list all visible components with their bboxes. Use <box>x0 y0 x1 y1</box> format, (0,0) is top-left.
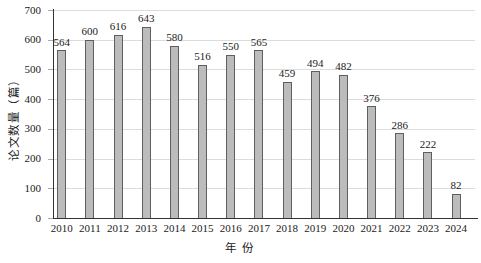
x-tick-label: 2024 <box>438 222 474 235</box>
bar <box>452 194 461 218</box>
bar-value-label: 550 <box>216 40 246 53</box>
bar-value-label: 286 <box>385 119 415 132</box>
x-axis-title: 年 份 <box>225 239 256 255</box>
bar <box>57 50 66 218</box>
bar <box>254 50 263 218</box>
y-tick-label: 400 <box>10 93 41 106</box>
bar-value-label: 494 <box>300 57 330 70</box>
bar <box>85 40 94 218</box>
bar-value-label: 565 <box>244 36 274 49</box>
y-tick-label: 300 <box>10 122 41 135</box>
bar-value-label: 376 <box>357 92 387 105</box>
y-axis-title: 论文数量（篇） <box>5 73 21 161</box>
y-tick-label: 0 <box>10 212 41 225</box>
bar-value-label: 82 <box>441 179 471 192</box>
bar-value-label: 482 <box>328 60 358 73</box>
bar-value-label: 580 <box>159 31 189 44</box>
bar <box>367 106 376 218</box>
bar-value-label: 616 <box>103 20 133 33</box>
gridline <box>53 10 475 11</box>
y-tick-label: 200 <box>10 152 41 165</box>
bar-value-label: 600 <box>75 25 105 38</box>
bar <box>114 35 123 218</box>
bar-value-label: 564 <box>47 36 77 49</box>
y-tick-label: 500 <box>10 63 41 76</box>
y-tick-label: 700 <box>10 4 41 17</box>
bar-value-label: 643 <box>131 12 161 25</box>
bar-value-label: 459 <box>272 67 302 80</box>
bar-value-label: 222 <box>413 138 443 151</box>
bar <box>339 75 348 218</box>
bar-chart-figure: 论文数量（篇） 年 份 0100200300400500600700564201… <box>0 0 481 263</box>
y-tick-label: 100 <box>10 182 41 195</box>
x-axis-line <box>53 218 478 219</box>
bar <box>311 71 320 218</box>
bar <box>283 82 292 218</box>
bar <box>423 152 432 218</box>
bar <box>142 27 151 218</box>
bar <box>198 65 207 218</box>
bar <box>170 46 179 218</box>
bar <box>395 133 404 218</box>
bar-value-label: 516 <box>188 50 218 63</box>
y-tick-label: 600 <box>10 33 41 46</box>
bar <box>226 55 235 218</box>
